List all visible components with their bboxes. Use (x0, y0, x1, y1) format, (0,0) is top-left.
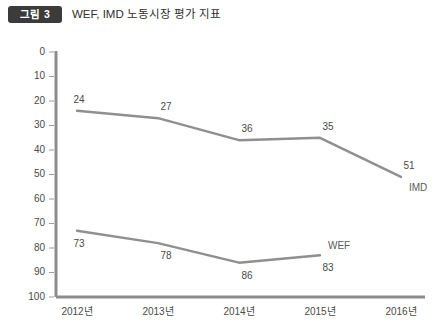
figure-number-badge: 그림 3 (8, 6, 62, 23)
line-chart: 0102030405060708090100 2012년2013년2014년20… (0, 34, 443, 329)
series-point-labels: 242736355173788683 (73, 94, 415, 281)
data-label-wef-2014년: 86 (241, 270, 253, 281)
data-label-imd-2015년: 35 (322, 121, 334, 132)
data-label-wef-2013년: 78 (160, 250, 172, 261)
y-axis-tick-label: 80 (34, 242, 46, 253)
series-line-imd (77, 111, 401, 177)
series-line-wef (77, 231, 320, 263)
x-axis-tick-label: 2012년 (61, 306, 92, 317)
series-label-wef: WEF (328, 240, 350, 251)
series-name-labels: IMDWEF (328, 182, 427, 251)
data-label-wef-2015년: 83 (322, 262, 334, 273)
y-axis-tick-label: 60 (34, 193, 46, 204)
data-label-imd-2014년: 36 (241, 123, 253, 134)
y-axis-tick-label: 10 (34, 70, 46, 81)
series-lines (77, 111, 401, 263)
y-axis-tick-label: 20 (34, 95, 46, 106)
figure-header: 그림 3 WEF, IMD 노동시장 평가 지표 (0, 0, 443, 34)
figure-title: WEF, IMD 노동시장 평가 지표 (72, 7, 221, 22)
x-axis-tick-label: 2016년 (385, 306, 416, 317)
data-label-imd-2013년: 27 (160, 101, 172, 112)
y-axis-tick-labels: 0102030405060708090100 (28, 46, 45, 302)
y-axis-tick-label: 100 (28, 291, 45, 302)
x-axis-tick-label: 2015년 (304, 306, 335, 317)
y-axis-tick-marks (49, 52, 54, 297)
data-label-imd-2016년: 51 (403, 160, 415, 171)
y-axis-tick-label: 0 (39, 46, 45, 57)
y-axis-tick-label: 40 (34, 144, 46, 155)
data-label-imd-2012년: 24 (73, 94, 85, 105)
series-label-imd: IMD (409, 182, 427, 193)
chart-canvas: 0102030405060708090100 2012년2013년2014년20… (0, 34, 443, 329)
x-axis-tick-labels: 2012년2013년2014년2015년2016년 (61, 306, 416, 317)
x-axis-tick-label: 2013년 (142, 306, 173, 317)
y-axis-tick-label: 70 (34, 217, 46, 228)
x-axis-tick-label: 2014년 (223, 306, 254, 317)
y-axis-tick-label: 90 (34, 266, 46, 277)
y-axis-tick-label: 30 (34, 119, 46, 130)
data-label-wef-2012년: 73 (73, 238, 85, 249)
y-axis-tick-label: 50 (34, 168, 46, 179)
